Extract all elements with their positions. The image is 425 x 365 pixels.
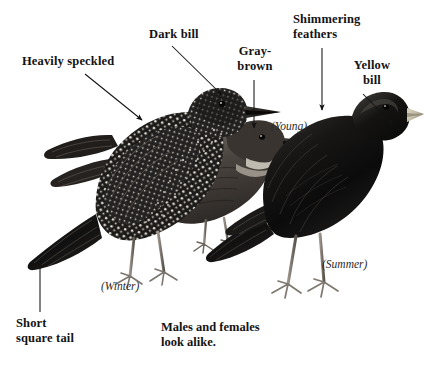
label-gray-brown: Gray- brown: [233, 44, 277, 73]
label-dark-bill: Dark bill: [149, 27, 199, 42]
label-yellow-bill: Yellow bill: [348, 58, 396, 87]
caption-young: (Young): [271, 120, 307, 133]
starling-illustration-plate: Heavily speckled Dark bill Gray- brown S…: [0, 0, 425, 365]
caption-winter: (Winter): [101, 280, 139, 293]
caption-summer: (Summer): [322, 258, 367, 271]
label-shimmering-feathers: Shimmering feathers: [293, 12, 360, 41]
label-short-square-tail: Short square tail: [16, 316, 74, 345]
males-females-note: Males and females look alike.: [161, 320, 260, 350]
label-heavily-speckled: Heavily speckled: [22, 54, 114, 69]
